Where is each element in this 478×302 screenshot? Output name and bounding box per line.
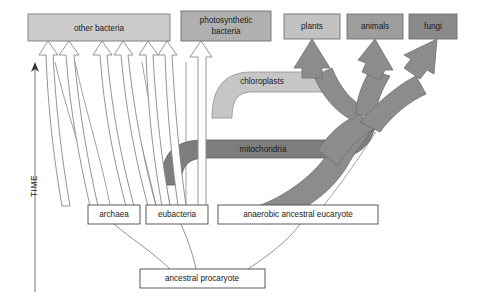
box-plants-label: plants bbox=[301, 22, 323, 31]
box-photosynthetic-bacteria-label-line2: bacteria bbox=[211, 27, 241, 36]
box-other-bacteria[interactable]: other bacteria bbox=[28, 14, 170, 41]
box-plants[interactable]: plants bbox=[284, 14, 340, 39]
procaryote-to-archaea-line bbox=[114, 224, 170, 269]
chloroplasts-label: chloroplasts bbox=[240, 77, 284, 86]
box-animals-label: animals bbox=[361, 22, 389, 31]
eucaryote-trunk-group bbox=[258, 39, 437, 224]
time-axis: TIME bbox=[30, 62, 39, 292]
box-ancestral-procaryote-label: ancestral procaryote bbox=[165, 274, 240, 283]
evolution-diagram: chloroplasts mitochondria bbox=[0, 0, 478, 302]
box-other-bacteria-label: other bacteria bbox=[74, 24, 125, 33]
box-archaea-label: archaea bbox=[99, 210, 129, 219]
descent-lines-group bbox=[114, 224, 300, 269]
procaryote-to-eucaryote-line bbox=[248, 224, 300, 269]
box-ancestral-procaryote[interactable]: ancestral procaryote bbox=[140, 269, 265, 288]
mitochondria-label: mitochondria bbox=[240, 145, 287, 154]
diagram-canvas: chloroplasts mitochondria bbox=[0, 0, 478, 302]
box-archaea[interactable]: archaea bbox=[88, 205, 140, 224]
box-eubacteria-label: eubacteria bbox=[158, 210, 197, 219]
arrow-to-animals-head bbox=[358, 39, 393, 80]
box-fungi-label: fungi bbox=[424, 22, 442, 31]
time-axis-label: TIME bbox=[30, 175, 39, 197]
procaryote-to-eubacteria-line bbox=[181, 224, 196, 269]
box-photosynthetic-bacteria[interactable]: photosynthetic bacteria bbox=[181, 11, 271, 41]
box-eubacteria[interactable]: eubacteria bbox=[146, 205, 208, 224]
box-photosynthetic-bacteria-label-line1: photosynthetic bbox=[200, 16, 253, 25]
box-fungi[interactable]: fungi bbox=[409, 14, 457, 39]
box-anaerobic-ancestral-eucaryote[interactable]: anaerobic ancestral eucaryote bbox=[218, 205, 378, 224]
hollow-arrow-to-photosynthetic-bacteria bbox=[190, 41, 212, 206]
hollow-arrow-archaea-1 bbox=[39, 41, 70, 206]
box-anaerobic-ancestral-eucaryote-label: anaerobic ancestral eucaryote bbox=[243, 210, 353, 219]
box-animals[interactable]: animals bbox=[347, 14, 403, 39]
arrow-to-fungi-head bbox=[404, 39, 437, 79]
